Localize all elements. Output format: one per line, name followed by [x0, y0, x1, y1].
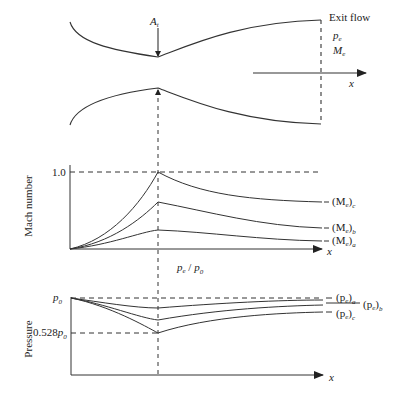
pressure-label-a: (pe)a [336, 292, 355, 306]
mach-y-label: Mach number [22, 170, 34, 242]
mach-ytick-1: 1.0 [52, 167, 66, 178]
pressure-label-b: (pe)b [363, 299, 382, 313]
mach-curve-a [70, 230, 322, 249]
pressure-ytick-p0: p0 [53, 292, 62, 306]
throat-area-label: At [150, 16, 159, 29]
pressure-label-c: (pe)c [336, 308, 355, 322]
throat-lower-arrowhead [155, 89, 161, 95]
mach-x-label: x [327, 246, 332, 257]
pressure-x-label: x [329, 372, 334, 383]
exit-flow-title: Exit flow [329, 12, 370, 23]
nozzle-drawing [70, 20, 366, 125]
mach-plot [70, 165, 329, 249]
pressure-ratio-label: pe / p0 [177, 262, 203, 276]
nozzle-x-label: x [349, 78, 354, 89]
pressure-plot [71, 297, 360, 375]
mach-label-a: (Me)a [332, 235, 356, 249]
exit-pressure-label: pe [333, 30, 342, 43]
nozzle-upper-wall [70, 20, 321, 57]
exit-mach-label: Me [333, 45, 345, 58]
pressure-ytick-critical: 0.528p0 [33, 327, 67, 341]
nozzle-lower-wall [70, 88, 321, 125]
mach-label-c: (Me)c [332, 196, 355, 210]
